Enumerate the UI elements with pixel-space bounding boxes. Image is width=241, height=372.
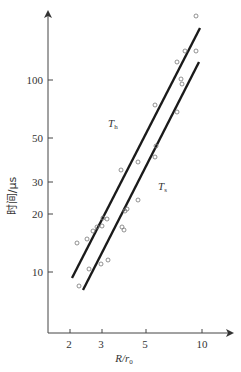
- x-tick-2: 2: [66, 338, 72, 350]
- points-th: [75, 14, 198, 245]
- y-ticks: [48, 80, 53, 272]
- x-tick-5: 5: [142, 338, 148, 350]
- points-ts: [77, 49, 198, 288]
- x-tick-10: 10: [197, 338, 209, 350]
- y-tick-10: 10: [32, 266, 44, 278]
- y-tick-labels: 100 50 30 20 10: [27, 74, 44, 278]
- y-tick-50: 50: [32, 132, 44, 144]
- label-th: Th: [108, 117, 118, 131]
- label-ts: Ts: [158, 180, 167, 194]
- x-ticks: [70, 329, 202, 333]
- x-axis-title: R/r0: [114, 352, 133, 366]
- y-tick-30: 30: [32, 176, 44, 188]
- chart-canvas: 100 50 30 20 10 2 3 5 10 R/r0 时间/μs: [0, 0, 241, 372]
- fit-line-th: [72, 28, 200, 278]
- x-tick-labels: 2 3 5 10: [66, 338, 208, 350]
- x-tick-3: 3: [98, 338, 104, 350]
- y-axis-title: 时间/μs: [6, 177, 19, 216]
- y-tick-100: 100: [27, 74, 44, 86]
- y-tick-20: 20: [32, 208, 44, 220]
- fit-line-ts: [83, 62, 199, 290]
